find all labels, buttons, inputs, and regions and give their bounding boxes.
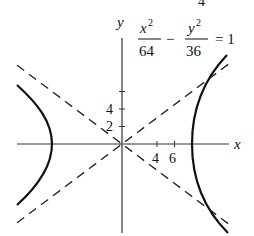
x-tick-label-6: 6 xyxy=(169,151,176,166)
graph-canvas: 4 y x 4 2 4 6 x 2 64 − y 2 36 = 1 xyxy=(0,0,254,236)
eq-num-left: x xyxy=(139,20,147,36)
asymptote-negative xyxy=(17,65,232,226)
eq-num-left-exp: 2 xyxy=(148,17,153,28)
y-tick-label-4: 4 xyxy=(106,102,113,117)
asymptote-positive xyxy=(17,62,232,223)
hyperbola-figure: 4 y x 4 2 4 6 x 2 64 − y 2 36 = 1 xyxy=(0,0,254,236)
y-axis-label: y xyxy=(115,14,124,30)
eq-minus: − xyxy=(166,31,174,47)
hyperbola-left-branch xyxy=(17,85,52,205)
eq-equals: = 1 xyxy=(215,31,235,47)
top-fragment: 4 xyxy=(198,0,205,9)
eq-num-right-exp: 2 xyxy=(196,17,201,28)
equation: x 2 64 − y 2 36 = 1 xyxy=(138,17,235,59)
eq-den-left: 64 xyxy=(139,43,155,59)
y-tick-label-2: 2 xyxy=(106,119,113,134)
x-tick-label-4: 4 xyxy=(152,151,159,166)
eq-num-right: y xyxy=(186,20,195,36)
x-axis-label: x xyxy=(233,136,241,152)
eq-den-right: 36 xyxy=(186,43,202,59)
